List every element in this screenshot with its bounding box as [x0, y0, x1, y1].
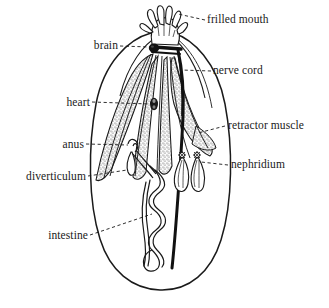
diagram-page: frilled mouth brain nerve cord heart ret… — [0, 0, 329, 308]
label-diverticulum: diverticulum — [0, 171, 86, 183]
label-heart: heart — [0, 97, 90, 109]
label-frilled-mouth: frilled mouth — [207, 14, 269, 26]
label-intestine: intestine — [0, 230, 88, 242]
label-anus: anus — [0, 139, 84, 151]
label-brain: brain — [0, 40, 118, 52]
label-nephridium: nephridium — [231, 159, 285, 171]
heart — [150, 98, 158, 110]
label-retractor-muscle: retractor muscle — [228, 120, 304, 132]
label-nerve-cord: nerve cord — [213, 65, 263, 77]
leader-frilled-mouth — [178, 14, 205, 20]
